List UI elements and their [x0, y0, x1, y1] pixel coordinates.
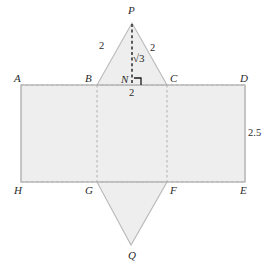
measure-label-left-slant: 2 — [99, 41, 104, 52]
vertex-label-F: F — [170, 185, 177, 196]
geometry-figure: P A B N C D H G F E Q 2 2 2 2.5 √3 — [0, 0, 272, 267]
measure-label-right-slant: 2 — [150, 43, 155, 54]
vertex-label-P: P — [128, 5, 135, 16]
triangle-GQF-bottom — [97, 182, 167, 245]
vertex-label-A: A — [14, 73, 21, 84]
measure-label-altitude-sqrt3: √3 — [133, 53, 145, 64]
net-diagram-svg — [0, 0, 272, 267]
measure-label-base-half: 2 — [129, 88, 134, 99]
vertex-label-G: G — [85, 185, 93, 196]
vertex-label-E: E — [240, 185, 247, 196]
vertex-label-C: C — [170, 73, 177, 84]
rectangle-ADEH — [21, 85, 245, 182]
vertex-label-Q: Q — [128, 250, 136, 261]
vertex-label-N: N — [121, 74, 128, 85]
vertex-label-H: H — [14, 185, 22, 196]
measure-label-prism-height: 2.5 — [248, 128, 261, 139]
vertex-label-D: D — [240, 73, 248, 84]
vertex-label-B: B — [85, 73, 92, 84]
